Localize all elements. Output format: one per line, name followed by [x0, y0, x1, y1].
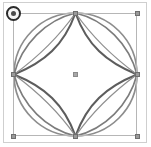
handle-middle-left[interactable] [11, 72, 16, 77]
handle-top-right[interactable] [135, 11, 140, 16]
rotate-handle-dot-icon [11, 11, 16, 16]
handle-bottom-right[interactable] [135, 134, 140, 139]
handle-bottom-center[interactable] [73, 134, 78, 139]
selection-overlay [0, 0, 151, 147]
handle-middle-right[interactable] [135, 72, 140, 77]
drawing-canvas-app [0, 0, 151, 147]
handle-top-center[interactable] [73, 11, 78, 16]
rotate-handle[interactable] [6, 6, 21, 21]
handle-bottom-left[interactable] [11, 134, 16, 139]
center-pivot-marker[interactable] [73, 72, 78, 77]
